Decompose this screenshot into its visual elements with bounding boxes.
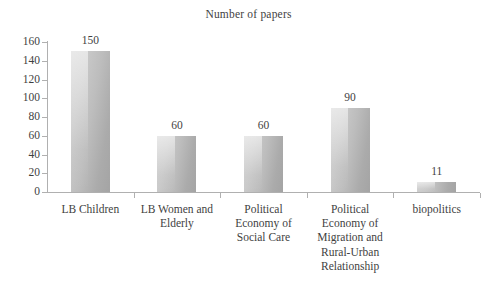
bar-highlight bbox=[71, 51, 89, 192]
category-label-line: Rural-Urban bbox=[299, 245, 402, 259]
bar bbox=[244, 136, 283, 192]
category-label-line: biopolitics bbox=[385, 202, 488, 216]
y-axis-tick-label-wrap: 40 bbox=[0, 155, 40, 156]
x-axis-tick bbox=[307, 193, 308, 198]
y-axis-tick-label-wrap: 160 bbox=[0, 42, 40, 43]
bar-value-label: 150 bbox=[50, 34, 130, 46]
x-axis-tick bbox=[393, 193, 394, 198]
bar-value-label: 90 bbox=[310, 91, 390, 103]
y-axis-tick-label-wrap: 0 bbox=[0, 192, 40, 193]
bar-chart: Number of papers 160140120100806040200 1… bbox=[0, 0, 497, 304]
y-axis-tick-label-wrap: 140 bbox=[0, 61, 40, 62]
y-axis-tick-label: 120 bbox=[4, 74, 40, 86]
bar bbox=[71, 51, 110, 192]
y-axis-tick-label: 40 bbox=[4, 149, 40, 161]
x-axis-line bbox=[47, 192, 480, 193]
y-axis-tick-label: 100 bbox=[4, 92, 40, 104]
bar-highlight bbox=[157, 136, 175, 192]
bar-highlight bbox=[417, 182, 435, 192]
category-label-line: Migration and bbox=[299, 230, 402, 244]
x-axis-tick bbox=[220, 193, 221, 198]
x-axis-tick bbox=[134, 193, 135, 198]
y-axis-tick-label-wrap: 80 bbox=[0, 117, 40, 118]
y-axis-tick-label-wrap: 100 bbox=[0, 98, 40, 99]
bar bbox=[157, 136, 196, 192]
bar-value-label: 11 bbox=[397, 165, 477, 177]
y-axis-tick-label: 60 bbox=[4, 130, 40, 142]
y-axis-tick-label-wrap: 120 bbox=[0, 80, 40, 81]
bar-value-label: 60 bbox=[224, 119, 304, 131]
bar-highlight bbox=[331, 108, 349, 192]
y-axis-tick-label-wrap: 20 bbox=[0, 173, 40, 174]
y-axis-tick-label: 80 bbox=[4, 111, 40, 123]
x-axis-tick bbox=[480, 193, 481, 198]
y-axis-tick-label: 0 bbox=[4, 186, 40, 198]
category-label: biopolitics bbox=[385, 202, 488, 216]
bar bbox=[331, 108, 370, 192]
bar-value-label: 60 bbox=[137, 119, 217, 131]
y-axis-tick-label: 140 bbox=[4, 55, 40, 67]
category-label-line: Relationship bbox=[299, 259, 402, 273]
y-axis-tick-label: 160 bbox=[4, 36, 40, 48]
chart-title: Number of papers bbox=[0, 8, 497, 20]
y-axis-tick-label-wrap: 60 bbox=[0, 136, 40, 137]
bar-highlight bbox=[244, 136, 262, 192]
y-axis-tick-label: 20 bbox=[4, 167, 40, 179]
y-axis-tick bbox=[42, 192, 47, 193]
bar bbox=[417, 182, 456, 192]
category-label-line: Economy of bbox=[299, 216, 402, 230]
